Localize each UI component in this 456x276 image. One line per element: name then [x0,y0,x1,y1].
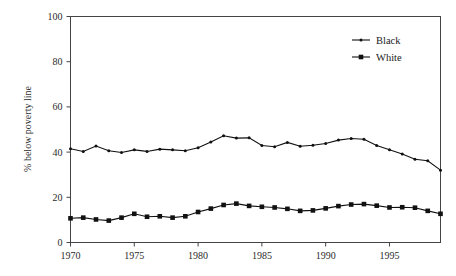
series-layer [68,134,443,223]
y-tick-label: 60 [53,101,63,112]
legend-marker [360,39,363,42]
data-point [362,138,365,141]
y-axis-tick-labels: 020406080100 [48,11,63,248]
data-point [120,151,123,154]
data-point [337,139,340,142]
data-point [336,204,341,209]
data-point [107,149,110,152]
data-point [374,203,379,208]
data-point [272,205,277,210]
x-tick-label: 1995 [379,250,399,261]
y-tick-label: 20 [53,192,63,203]
y-tick-label: 40 [53,147,63,158]
data-point [311,144,314,147]
data-point [146,150,149,153]
data-point [350,137,353,140]
legend-item-white[interactable]: White [352,52,402,63]
data-point [400,205,405,210]
y-tick-label: 80 [53,56,63,67]
y-tick-label: 100 [48,11,63,22]
data-point [260,204,265,209]
data-point [106,218,111,223]
data-point [413,158,416,161]
data-point [247,204,252,209]
data-point [184,149,187,152]
data-point [119,215,124,220]
data-point [438,212,443,217]
legend-label: White [376,52,402,63]
data-point [158,148,161,151]
data-point [298,209,303,214]
data-point [145,214,150,219]
data-point [95,145,98,148]
x-axis-tick-labels: 197019751980198519901995 [61,250,400,261]
chart-legend: BlackWhite [352,35,402,63]
x-tick-label: 1975 [124,250,144,261]
data-point [221,203,226,208]
plot-frame [71,17,441,243]
data-point [81,215,86,220]
x-tick-label: 1985 [252,250,272,261]
data-point [362,202,367,207]
x-tick-label: 1980 [188,250,208,261]
data-point [82,150,85,153]
data-point [132,212,137,217]
series-white [68,201,443,223]
data-point [375,144,378,147]
data-point [273,145,276,148]
data-point [222,134,225,137]
data-point [196,210,201,215]
data-point [94,217,99,222]
data-point [426,159,429,162]
data-point [387,205,392,210]
data-point [425,209,430,214]
data-point [439,169,442,172]
series-line [71,204,441,221]
data-point [69,147,72,150]
data-point [248,136,251,139]
data-point [170,215,175,220]
data-point [286,141,289,144]
data-point [324,142,327,145]
x-tick-label: 1990 [316,250,336,261]
data-point [68,216,73,221]
data-point [209,206,214,211]
data-point [299,145,302,148]
data-point [401,152,404,155]
legend-label: Black [376,35,401,46]
poverty-line-chart: 020406080100 197019751980198519901995 % … [0,0,456,276]
data-point [323,206,328,211]
data-point [171,148,174,151]
legend-marker [359,55,364,60]
data-point [158,214,163,219]
series-line [71,136,441,170]
y-axis-ticks [67,17,71,243]
y-tick-label: 0 [58,237,63,248]
data-point [388,148,391,151]
data-point [413,205,418,210]
data-point [235,137,238,140]
data-point [285,207,290,212]
y-axis-title: % below poverty line [22,86,33,172]
series-black [69,134,442,171]
x-axis-ticks [71,243,390,247]
data-point [234,201,239,206]
data-point [197,146,200,149]
data-point [349,202,354,207]
chart-svg: 020406080100 197019751980198519901995 % … [0,0,456,276]
data-point [311,208,316,213]
data-point [260,144,263,147]
data-point [183,214,188,219]
legend-item-black[interactable]: Black [352,35,401,46]
x-tick-label: 1970 [61,250,81,261]
data-point [209,140,212,143]
data-point [133,148,136,151]
